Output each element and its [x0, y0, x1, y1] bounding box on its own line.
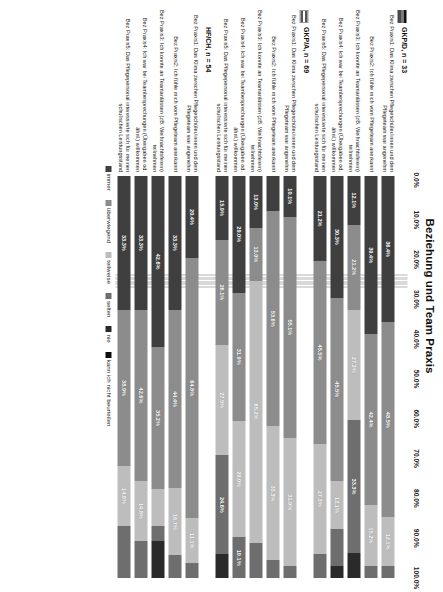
bar-value-label: 33.3%: [351, 479, 357, 495]
bar-row: Bez Praxis2: Ich fühle mich vom Pflegete…: [362, 8, 379, 584]
legend-item[interactable]: kann ich nicht beurteilen: [105, 352, 112, 427]
legend-swatch-icon: [106, 200, 112, 206]
bar-value-label: 14.8%: [138, 503, 144, 519]
bar-row: Bez Praxis3: Ich konnte an Teamanlässen …: [149, 8, 166, 584]
legend-swatch-icon: [106, 293, 112, 299]
bar-value-label: 45.5%: [317, 345, 323, 361]
bar-segment: [283, 566, 296, 578]
bar-segment: [313, 554, 326, 579]
bar-segment: [185, 563, 198, 578]
bar-segment: 15.2%: [364, 505, 377, 566]
category-label: Bez Praxis4: Ich war bei Teambesprechung…: [330, 8, 343, 176]
x-tick-label: 60.0%: [412, 409, 419, 428]
bar-segment: [117, 526, 130, 578]
bar-segment: [134, 541, 147, 578]
bar-segment: 33.3%: [266, 426, 279, 560]
stacked-bar: 53.6%33.3%: [266, 176, 279, 578]
plot-area: 0.0%10.0%20.0%30.0%40.0%50.0%60.0%70.0%8…: [115, 8, 419, 584]
legend-swatch-icon: [106, 252, 112, 258]
bar-segment: 16.7%: [168, 488, 181, 555]
stacked-bar: 30.3%45.5%12.1%: [330, 176, 343, 578]
bar-segment: 12.1%: [347, 176, 360, 225]
bar-value-label: 55.1%: [287, 319, 293, 335]
x-tick-label: 20.0%: [412, 250, 419, 269]
x-tick-label: 90.0%: [412, 529, 419, 548]
bar-segment: 31.9%: [283, 438, 296, 566]
bar-track: 53.6%33.3%: [266, 176, 279, 578]
stacked-bar: 36.4%48.5%12.1%: [381, 176, 394, 578]
bar-row: Bez Praxis3: Ich konnte an Teamanlässen …: [345, 8, 362, 584]
bar-segment: 33.3%: [168, 176, 181, 310]
bar-segment: 64.8%: [185, 258, 198, 518]
bar-group: HF/CH, n = 54Bez Praxis1: Das Klima zwis…: [115, 8, 211, 584]
bar-segment: 10.1%: [232, 537, 245, 578]
bar-segment: 33.3%: [117, 176, 130, 310]
stacked-bar: 29.0%31.9%29.0%10.1%: [232, 176, 245, 578]
bar-segment: 27.3%: [313, 444, 326, 554]
bar-segment: 30.3%: [330, 176, 343, 298]
x-axis-ticks: 0.0%10.0%20.0%30.0%40.0%50.0%60.0%70.0%8…: [407, 180, 419, 578]
bar-track: 13.0%13.0%65.2%: [249, 176, 262, 578]
bar-segment: 42.6%: [151, 176, 164, 347]
bar-value-label: 14.8%: [121, 488, 127, 504]
chart-legend: immerüberwiegendteilweiseseltenniekann i…: [105, 8, 112, 584]
bar-segment: 12.1%: [381, 517, 394, 566]
bar-segment: [330, 529, 343, 566]
bar-segment: 11.1%: [185, 518, 198, 563]
bar-value-label: 42.6%: [138, 388, 144, 404]
bar-segment: [347, 553, 360, 578]
legend-label: überwiegend: [105, 208, 112, 243]
bar-value-label: 15.9%: [219, 200, 225, 216]
group-label: GKP/A, n = 69: [302, 27, 309, 73]
bar-segment: 10.1%: [283, 176, 296, 217]
bar-value-label: 38.9%: [121, 380, 127, 396]
bar-value-label: 45.5%: [334, 381, 340, 397]
legend-label: selten: [105, 301, 112, 318]
bar-track: 10.1%55.1%31.9%: [283, 176, 296, 578]
bar-track: 36.4%48.5%12.1%: [381, 176, 394, 578]
bar-segment: 39.4%: [364, 176, 377, 334]
bar-row: Bez Praxis4: Ich war bei Teambesprechung…: [328, 8, 345, 584]
category-label: Bez Praxis2: Ich fühle mich vom Pflegete…: [171, 8, 177, 176]
bar-value-label: 29.0%: [236, 226, 242, 242]
stacked-bar: 39.4%42.4%15.2%: [364, 176, 377, 578]
bar-value-label: 12.1%: [351, 192, 357, 208]
category-label: Bez Praxis2: Ich fühle mich vom Pflegete…: [269, 8, 275, 176]
bar-segment: [330, 566, 343, 578]
bar-value-label: 31.9%: [236, 349, 242, 365]
bar-segment: 38.9%: [117, 310, 130, 466]
legend-item[interactable]: selten: [105, 293, 112, 318]
bar-groups: GKP/D, n = 33Bez Praxis1: Das Klima zwis…: [115, 8, 407, 584]
legend-item[interactable]: überwiegend: [105, 200, 112, 243]
stacked-bar: 15.9%26.1%27.5%24.6%: [215, 176, 228, 578]
bar-segment: [168, 555, 181, 578]
bar-value-label: 21.2%: [351, 259, 357, 275]
legend-swatch-icon: [106, 166, 112, 172]
legend-item[interactable]: immer: [105, 166, 112, 191]
bar-segment: 29.0%: [232, 176, 245, 293]
category-label: Bez Praxis4: Ich war bei Teambesprechung…: [134, 8, 147, 176]
bar-value-label: 31.9%: [287, 494, 293, 510]
bar-value-label: 33.3%: [121, 235, 127, 251]
group-header: HF/CH, n = 54: [200, 8, 211, 584]
category-label: Bez Praxis5: Das Pflegepersonal interess…: [215, 8, 228, 176]
x-tick-label: 30.0%: [412, 290, 419, 309]
bar-row: Bez Praxis5: Das Pflegepersonal interess…: [311, 8, 328, 584]
bar-segment: [266, 176, 279, 211]
category-label: Bez Praxis4: Ich war bei Teambesprechung…: [232, 8, 245, 176]
legend-label: immer: [105, 174, 112, 191]
bar-track: 33.3%42.6%14.8%: [134, 176, 147, 578]
legend-item[interactable]: teilweise: [105, 252, 112, 284]
bar-track: 42.6%35.2%: [151, 176, 164, 578]
stacked-bar: 20.4%64.8%11.1%: [185, 176, 198, 578]
bar-value-label: 30.3%: [334, 229, 340, 245]
stacked-bar: 33.3%38.9%14.8%: [117, 176, 130, 578]
category-label: Bez Praxis2: Ich fühle mich vom Pflegete…: [367, 8, 373, 176]
bar-segment: 53.6%: [266, 211, 279, 426]
bar-row: Bez Praxis1: Das Klima zwischen Pflegesc…: [379, 8, 396, 584]
bar-value-label: 65.2%: [253, 404, 259, 420]
legend-item[interactable]: nie: [105, 326, 112, 342]
bar-value-label: 27.3%: [317, 491, 323, 507]
stacked-bar: 12.1%21.2%27.3%33.3%: [347, 176, 360, 578]
legend-swatch-icon: [106, 352, 112, 358]
